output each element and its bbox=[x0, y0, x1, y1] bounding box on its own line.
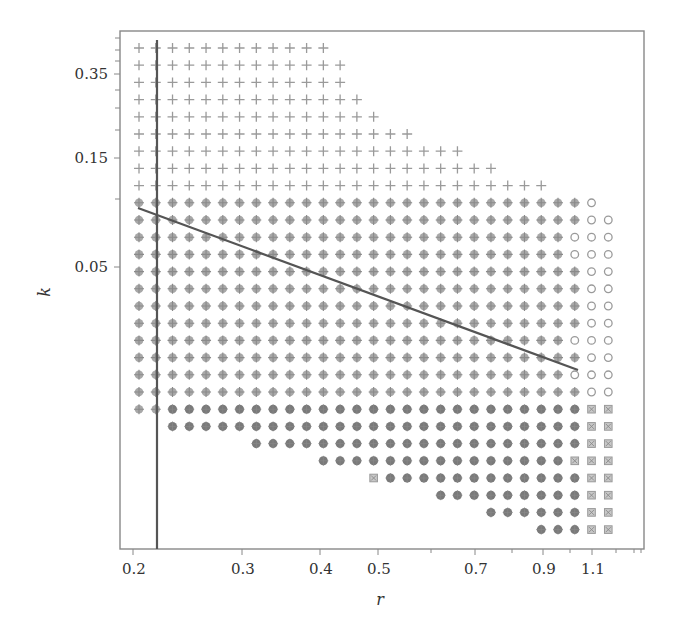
cross-dot-cross bbox=[519, 249, 529, 259]
plus-marker bbox=[318, 112, 328, 122]
cross-dot-cross bbox=[302, 215, 312, 225]
cross-dot-cross bbox=[218, 370, 228, 380]
dark-dot-cross bbox=[402, 473, 412, 483]
dark-dot-cross bbox=[452, 490, 462, 500]
cross-dot-cross bbox=[151, 198, 161, 208]
cross-dot-cross bbox=[151, 404, 161, 414]
cross-dot-cross bbox=[402, 232, 412, 242]
cross-dot-cross bbox=[553, 232, 563, 242]
cross-dot-cross bbox=[168, 249, 178, 259]
plus-marker bbox=[335, 60, 345, 70]
cross-dot-cross bbox=[251, 335, 261, 345]
dark-dot-cross bbox=[335, 404, 345, 414]
cross-dot-cross bbox=[134, 249, 144, 259]
open-circle-marker bbox=[571, 233, 579, 241]
plus-marker bbox=[385, 129, 395, 139]
plus-marker bbox=[251, 129, 261, 139]
plus-marker bbox=[168, 129, 178, 139]
plus-marker bbox=[201, 43, 211, 53]
cross-dot-cross bbox=[486, 198, 496, 208]
plus-marker bbox=[318, 146, 328, 156]
dark-dot-cross bbox=[302, 421, 312, 431]
cross-dot-cross bbox=[318, 353, 328, 363]
cross-dot-cross bbox=[503, 301, 513, 311]
cross-dot-cross bbox=[184, 335, 194, 345]
cross-dot-cross bbox=[486, 215, 496, 225]
cross-dot-cross bbox=[134, 232, 144, 242]
cross-dot-cross bbox=[184, 232, 194, 242]
cross-dot-cross bbox=[469, 301, 479, 311]
cross-dot-cross bbox=[268, 318, 278, 328]
cross-dot-cross bbox=[469, 249, 479, 259]
plus-marker bbox=[251, 163, 261, 173]
plus-marker bbox=[134, 181, 144, 191]
cross-dot-cross bbox=[385, 198, 395, 208]
cross-dot-cross bbox=[536, 267, 546, 277]
dark-dot-cross bbox=[553, 421, 563, 431]
cross-dot-cross bbox=[335, 301, 345, 311]
cross-dot-cross bbox=[419, 284, 429, 294]
cross-dot-cross bbox=[235, 215, 245, 225]
cross-dot-cross bbox=[553, 387, 563, 397]
dark-dot-cross bbox=[503, 456, 513, 466]
cross-dot-cross bbox=[134, 284, 144, 294]
cross-dot-cross bbox=[402, 198, 412, 208]
y-axis-title: k bbox=[35, 287, 54, 297]
cross-dot-cross bbox=[536, 249, 546, 259]
cross-dot-cross bbox=[151, 370, 161, 380]
plus-marker bbox=[402, 163, 412, 173]
plus-marker bbox=[352, 95, 362, 105]
cross-dot-cross bbox=[318, 215, 328, 225]
cross-dot-cross bbox=[268, 353, 278, 363]
cross-dot-cross bbox=[151, 301, 161, 311]
dark-dot-cross bbox=[184, 421, 194, 431]
cross-dot-cross bbox=[335, 335, 345, 345]
cross-dot-cross bbox=[419, 249, 429, 259]
cross-dot-cross bbox=[369, 301, 379, 311]
cross-dot-cross bbox=[436, 353, 446, 363]
cross-dot-cross bbox=[168, 387, 178, 397]
cross-dot-cross bbox=[352, 301, 362, 311]
plus-marker bbox=[218, 60, 228, 70]
x-axis-ticks: 0.20.30.40.50.70.91.1 bbox=[122, 549, 641, 578]
cross-dot-cross bbox=[285, 249, 295, 259]
plus-marker bbox=[302, 129, 312, 139]
cross-dot-cross bbox=[302, 387, 312, 397]
dark-dot-cross bbox=[369, 456, 379, 466]
cross-dot-cross bbox=[503, 249, 513, 259]
plus-marker bbox=[235, 112, 245, 122]
plus-marker bbox=[134, 129, 144, 139]
dark-dot-cross bbox=[352, 404, 362, 414]
cross-dot-cross bbox=[570, 284, 580, 294]
plus-marker bbox=[302, 146, 312, 156]
plus-marker bbox=[134, 43, 144, 53]
plus-marker bbox=[318, 181, 328, 191]
plus-marker bbox=[235, 95, 245, 105]
cross-dot-cross bbox=[385, 249, 395, 259]
dark-dot-cross bbox=[436, 421, 446, 431]
cross-dot-cross bbox=[369, 353, 379, 363]
cross-dot-cross bbox=[235, 353, 245, 363]
cross-dot-cross bbox=[469, 318, 479, 328]
plus-marker bbox=[335, 77, 345, 87]
cross-dot-cross bbox=[369, 215, 379, 225]
plus-marker bbox=[184, 95, 194, 105]
cross-dot-cross bbox=[452, 301, 462, 311]
cross-dot-cross bbox=[519, 387, 529, 397]
plus-marker bbox=[268, 163, 278, 173]
cross-dot-cross bbox=[369, 232, 379, 242]
cross-dot-cross bbox=[235, 318, 245, 328]
cross-dot-cross bbox=[201, 318, 211, 328]
cross-dot-cross bbox=[469, 284, 479, 294]
plus-marker bbox=[201, 129, 211, 139]
dark-dot-cross bbox=[452, 404, 462, 414]
plus-marker bbox=[285, 181, 295, 191]
dark-dot-cross bbox=[436, 490, 446, 500]
plus-marker bbox=[201, 146, 211, 156]
cross-dot-cross bbox=[318, 249, 328, 259]
dark-dot-cross bbox=[436, 404, 446, 414]
cross-dot-cross bbox=[251, 353, 261, 363]
cross-dot-cross bbox=[553, 267, 563, 277]
plus-marker bbox=[218, 129, 228, 139]
cross-dot-cross bbox=[335, 318, 345, 328]
